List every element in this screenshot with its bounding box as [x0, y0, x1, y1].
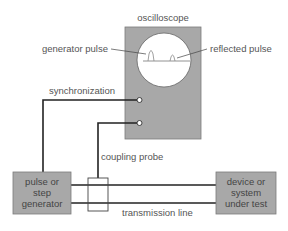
coupling-probe-label: coupling probe [101, 151, 163, 162]
device-line-3: under test [225, 198, 268, 209]
device-line-1: device or [227, 176, 266, 187]
sync-input-terminal [137, 98, 142, 103]
generator-line-1: pulse or [25, 176, 59, 187]
transmission-line-label: transmission line [122, 207, 193, 218]
reflected-pulse-label: reflected pulse [210, 43, 272, 54]
device-line-2: system [231, 187, 261, 198]
generator-line-2: step [33, 187, 51, 198]
oscilloscope-label: oscilloscope [137, 12, 189, 23]
generator-line-3: generator [22, 198, 63, 209]
tdr-diagram: oscilloscope generator pulse reflected p… [0, 0, 288, 231]
oscilloscope-screen [137, 33, 191, 87]
synchronization-label: synchronization [49, 85, 115, 96]
probe-input-terminal [137, 121, 142, 126]
coupling-probe [88, 178, 108, 211]
generator-pulse-label: generator pulse [42, 43, 108, 54]
